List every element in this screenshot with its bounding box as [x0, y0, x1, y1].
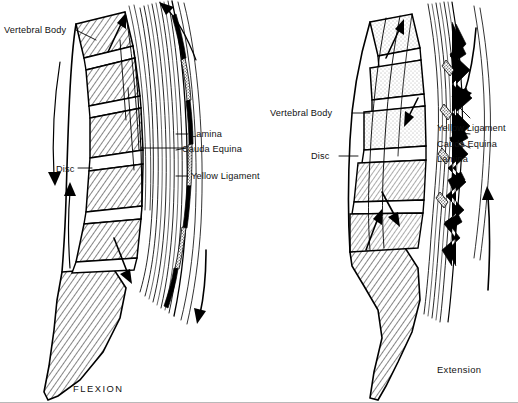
extension-sacrum [350, 240, 420, 400]
vertebra-l5 [350, 213, 423, 252]
label-lamina-right: Lamina [437, 154, 469, 164]
extension-vertebral-bodies [350, 14, 426, 252]
caption-extension: Extension [437, 364, 481, 375]
spine-illustration: Vertebral Body Disc Lamina Cauda Equina … [0, 0, 518, 403]
caption-flexion: FLEXION [73, 383, 124, 394]
label-cauda-equina-right: Cauda Equina [437, 139, 498, 149]
vertebra-l4 [86, 164, 143, 212]
label-vertebral-body-right: Vertebral Body [270, 108, 333, 118]
extension-posterior-strands [474, 6, 491, 260]
vertebra-l5 [76, 219, 141, 262]
label-yellow-ligament-left: Yellow Ligament [191, 171, 260, 181]
flexion-panel: Vertebral Body Disc Lamina Cauda Equina … [4, 1, 260, 400]
label-vertebral-body-left: Vertebral Body [4, 25, 67, 35]
extension-panel: Vertebral Body Disc Yellow Ligament Caud… [270, 2, 506, 400]
vertebra-l4 [354, 160, 426, 202]
label-cauda-equina-left: Cauda Equina [182, 144, 243, 154]
lamina-segment-3 [183, 186, 191, 228]
label-lamina-left: Lamina [191, 129, 223, 139]
label-yellow-ligament-right: Yellow Ligament [437, 123, 506, 133]
spine-figure: Vertebral Body Disc Lamina Cauda Equina … [0, 0, 518, 403]
label-disc-left: Disc [56, 164, 75, 174]
label-disc-right: Disc [311, 151, 330, 161]
flexion-sacrum [44, 268, 126, 400]
